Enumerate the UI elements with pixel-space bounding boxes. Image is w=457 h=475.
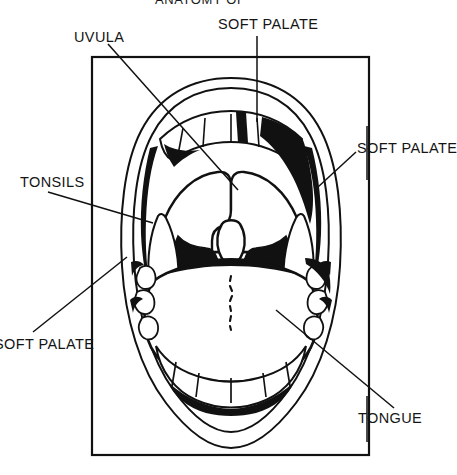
label-soft-palate-top: SOFT PALATE: [218, 17, 318, 32]
leader-tonsils: [48, 192, 153, 223]
label-tongue: TONGUE: [358, 411, 422, 426]
label-uvula: UVULA: [74, 30, 124, 45]
label-soft-palate-left: SOFT PALATE: [0, 337, 94, 352]
figure-title: ANATOMY OF: [155, 0, 246, 6]
label-tonsils: TONSILS: [20, 175, 85, 190]
mouth-anatomy-figure: [0, 0, 457, 475]
label-soft-palate-right: SOFT PALATE: [357, 141, 457, 156]
leader-soft-palate-left: [33, 257, 127, 332]
diagram-page: ANATOMY OF SOFT PALATE UVULA SOFT PALATE…: [0, 0, 457, 475]
